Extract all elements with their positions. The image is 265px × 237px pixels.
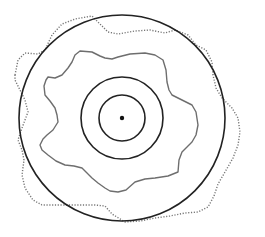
center-point <box>120 116 124 120</box>
diagram-canvas <box>0 0 265 237</box>
concentric-regions-diagram <box>0 0 265 237</box>
